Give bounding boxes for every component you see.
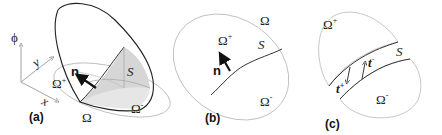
normal-n-label: n bbox=[213, 63, 221, 78]
t-plus-label: t+ bbox=[336, 81, 345, 96]
t-plus-arrow bbox=[347, 67, 350, 82]
panel-a: ϕ y x n Ω+ S Ω- Ω (a) bbox=[11, 3, 176, 127]
panel-label-a: (a) bbox=[29, 110, 44, 124]
normal-n-arrow bbox=[80, 77, 96, 88]
axes: ϕ y x bbox=[11, 30, 57, 109]
omega-plus-label: Ω+ bbox=[323, 16, 338, 32]
panel-label-c: (c) bbox=[325, 117, 340, 131]
surface-s-label: S bbox=[127, 64, 134, 79]
t-minus-arrow bbox=[362, 63, 365, 79]
omega-plus-label: Ω+ bbox=[218, 32, 233, 48]
omega-label: Ω bbox=[260, 13, 270, 28]
omega-minus-label: Ω- bbox=[260, 93, 273, 109]
omega-minus-label: Ω- bbox=[131, 101, 144, 116]
panel-c: Ω+ S t+ t- Ω- (c) bbox=[319, 12, 421, 131]
domain-omega-outline bbox=[153, 0, 310, 135]
panel-label-b: (b) bbox=[205, 111, 220, 125]
omega-label: Ω bbox=[82, 110, 92, 125]
upper-interface-s bbox=[329, 42, 398, 86]
y-axis-label: y bbox=[27, 54, 42, 71]
normal-n-label: n bbox=[71, 64, 79, 79]
normal-n-arrow bbox=[222, 57, 230, 71]
surface-s-label: S bbox=[258, 37, 265, 52]
t-minus-label: t- bbox=[368, 55, 375, 70]
x-axis-label: x bbox=[39, 93, 52, 110]
omega-plus-label: Ω+ bbox=[52, 76, 67, 91]
omega-minus-label: Ω- bbox=[376, 91, 389, 107]
figure-canvas: ϕ y x n Ω+ S Ω- Ω (a) n bbox=[0, 0, 442, 135]
interface-s-curve bbox=[211, 49, 282, 95]
phi-axis-label: ϕ bbox=[11, 30, 18, 45]
surface-s-label: S bbox=[396, 44, 403, 59]
panel-b: n Ω+ Ω S Ω- (b) bbox=[153, 0, 310, 135]
